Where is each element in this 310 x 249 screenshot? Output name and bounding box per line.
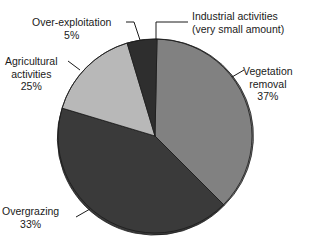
pie-label-industrial-activities[interactable]: Industrial activities (very small amount… bbox=[192, 10, 284, 35]
pie-label-industrial-line1: Industrial activities bbox=[192, 10, 278, 22]
pie-label-overgrazing[interactable]: Overgrazing 33% bbox=[2, 205, 59, 230]
pie-label-over-exploitation-line1: Over-exploitation bbox=[32, 16, 111, 28]
pie-label-overgrazing-line1: Overgrazing bbox=[2, 205, 59, 217]
pie-label-vegetation-removal[interactable]: Vegetation removal 37% bbox=[243, 65, 293, 103]
pie-label-vegetation-percent: 37% bbox=[243, 90, 293, 103]
pie-label-agricultural-line2: activities bbox=[5, 68, 58, 81]
leader-line-over-exploitation bbox=[126, 22, 140, 40]
pie-label-industrial-line2: (very small amount) bbox=[192, 23, 284, 36]
pie-label-vegetation-line1: Vegetation bbox=[243, 65, 293, 77]
pie-label-overgrazing-percent: 33% bbox=[2, 218, 59, 231]
leader-line-overgrazing bbox=[76, 209, 90, 217]
pie-label-over-exploitation-percent: 5% bbox=[32, 29, 111, 42]
pie-label-over-exploitation[interactable]: Over-exploitation 5% bbox=[32, 16, 111, 41]
pie-label-agricultural-activities[interactable]: Agricultural activities 25% bbox=[5, 55, 58, 93]
pie-label-agricultural-line1: Agricultural bbox=[5, 55, 58, 67]
pie-chart-figure: Industrial activities (very small amount… bbox=[0, 0, 310, 249]
leader-line-agricultural bbox=[68, 61, 80, 70]
leader-line-industrial bbox=[156, 22, 188, 39]
pie-label-vegetation-line2: removal bbox=[243, 78, 293, 91]
pie-label-agricultural-percent: 25% bbox=[5, 80, 58, 93]
